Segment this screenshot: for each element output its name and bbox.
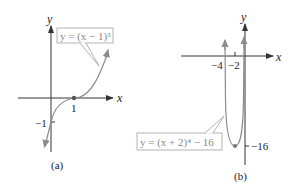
caption-b: (b) (234, 170, 247, 183)
equation-pointer-b (205, 116, 224, 133)
y-tick-label-a: −1 (35, 117, 47, 129)
curve-a (45, 52, 108, 146)
equation-label-b: y = (x + 2)⁴ − 16 (140, 136, 214, 149)
x-axis-label-a: x (116, 91, 123, 105)
point-minimum-b (233, 144, 237, 148)
equation-pointer-a (80, 43, 99, 66)
x-axis-label-b: x (275, 50, 282, 64)
caption-a: (a) (51, 159, 64, 172)
y-axis-label-b: y (240, 10, 247, 24)
figure: x y −1 1 y = (x − 1)³ (a) x y −4 −2 −16 (0, 0, 296, 191)
curve-arrow-down-a (45, 140, 47, 147)
x-tick-label-minus2: −2 (228, 59, 240, 71)
panel-a: x y −1 1 y = (x − 1)³ (a) (18, 12, 123, 172)
y-axis-label-a: y (46, 12, 53, 26)
x-tick-label-a: 1 (71, 102, 77, 114)
panel-b: x y −4 −2 −16 y = (x + 2)⁴ − 16 (b) (137, 10, 282, 183)
point-1-0 (72, 96, 76, 100)
y-tick-label-minus16: −16 (251, 140, 269, 152)
equation-label-a: y = (x − 1)³ (60, 30, 111, 43)
x-tick-label-minus4: −4 (211, 59, 223, 71)
